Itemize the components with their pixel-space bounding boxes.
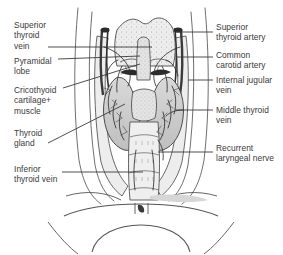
label-thyroid-gland: Thyroid gland xyxy=(14,128,42,149)
label-superior-thyroid-vein: Superior thyroid vein xyxy=(14,20,46,51)
clavicle-sternum-group xyxy=(48,193,234,254)
manubrium-stipple xyxy=(150,195,208,203)
thyroid-anatomy-figure: Superior thyroid vein Pyramidal lobe Cri… xyxy=(0,0,283,255)
label-middle-thyroid-vein: Middle thyroid vein xyxy=(216,105,269,126)
label-pyramidal-lobe: Pyramidal lobe xyxy=(14,56,52,77)
sternal-shadow xyxy=(138,205,144,213)
label-common-carotid-artery: Common carotid artery xyxy=(216,50,266,71)
label-recurrent-laryngeal-nerve: Recurrent laryngeal nerve xyxy=(216,143,274,164)
trachea xyxy=(129,122,160,200)
thoracic-inlet xyxy=(92,225,190,252)
label-inferior-thyroid-vein: Inferior thyroid vein xyxy=(14,164,57,185)
pyramidal-lobe xyxy=(137,37,151,80)
label-cricothyoid-cartilage-muscle: Cricothyoid cartilage+ muscle xyxy=(14,85,56,116)
thyroid-isthmus xyxy=(132,89,157,121)
label-internal-jugular-vein: Internal jugular vein xyxy=(216,75,272,96)
label-superior-thyroid-artery: Superior thyroid artery xyxy=(216,22,266,43)
rib-right xyxy=(204,222,234,254)
rib-left xyxy=(48,222,78,254)
